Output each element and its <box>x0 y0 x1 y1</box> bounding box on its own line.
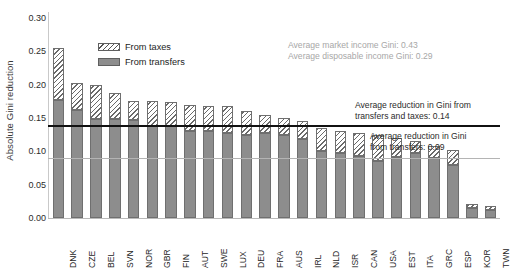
bar-group <box>53 48 65 218</box>
bar-segment-from-taxes <box>128 101 140 120</box>
y-axis-tick-label: 0.25 <box>18 47 46 56</box>
bar-segment-from-transfers <box>203 131 215 218</box>
x-axis-tick-label: GRC <box>444 222 454 268</box>
x-axis-tick-label: GBR <box>162 222 172 268</box>
bar-segment-from-taxes <box>335 131 347 153</box>
bar-segment-from-taxes <box>71 83 83 110</box>
bar-group <box>353 133 365 218</box>
x-axis-tick-label: ISR <box>350 222 360 268</box>
x-axis-tick-label: ITA <box>425 222 435 268</box>
bar-segment-from-transfers <box>222 133 234 218</box>
bar-group <box>90 85 102 218</box>
bar-group <box>109 93 121 218</box>
y-axis-tick-label: 0.10 <box>18 147 46 156</box>
legend-item-label: From transfers <box>125 57 185 67</box>
bar-group <box>335 131 347 218</box>
x-axis-tick-label: FIN <box>181 222 191 268</box>
bar-segment-from-taxes <box>109 93 121 120</box>
x-axis-tick-label: LUX <box>238 222 248 268</box>
x-axis-tick-label: EST <box>407 222 417 268</box>
x-axis-tick-label: IRL <box>313 222 323 268</box>
bar-group <box>447 150 459 218</box>
bar-group <box>316 128 328 218</box>
annotation-reference-line-total: Average reduction in Gini from transfers… <box>355 100 471 122</box>
y-axis-ticks: 0.050.100.150.200.250.300.00 <box>14 0 46 270</box>
x-axis-tick-label: TWN <box>501 222 511 268</box>
bar-segment-from-transfers <box>372 161 384 218</box>
y-axis-tick-label: 0.20 <box>18 80 46 89</box>
x-axis-tick-label: KOR <box>482 222 492 268</box>
bar-segment-from-transfers <box>259 133 271 218</box>
bar-group <box>184 105 196 218</box>
bar-segment-from-transfers <box>485 210 497 218</box>
bar-group <box>259 115 271 218</box>
bar-segment-from-taxes <box>90 85 102 120</box>
bar-segment-from-taxes <box>203 106 215 131</box>
bar-segment-from-transfers <box>128 120 140 218</box>
bar-segment-from-taxes <box>316 128 328 151</box>
bar-segment-from-transfers <box>391 157 403 218</box>
bar-segment-from-transfers <box>184 131 196 218</box>
hatch-swatch-icon <box>98 43 120 51</box>
x-axis-tick-label: FRA <box>275 222 285 268</box>
bar-segment-from-transfers <box>109 119 121 218</box>
annotation-average-gini: Average market income Gini: 0.43 Average… <box>288 40 433 62</box>
bar-segment-from-transfers <box>147 126 159 218</box>
bar-segment-from-transfers <box>410 153 422 218</box>
y-axis-tick-label: 0.00 <box>18 214 46 223</box>
bar-group <box>466 204 478 218</box>
bar-segment-from-transfers <box>466 208 478 218</box>
bar-segment-from-taxes <box>222 106 234 133</box>
bar-segment-from-transfers <box>278 135 290 218</box>
x-axis-tick-label: SWE <box>219 222 229 268</box>
x-axis-tick-label: DNK <box>68 222 78 268</box>
bar-segment-from-transfers <box>165 126 177 218</box>
y-axis-title-label: Absolute Gini reduction <box>4 60 15 161</box>
bar-group <box>297 121 309 218</box>
bar-segment-from-taxes <box>466 204 478 208</box>
x-axis-labels: DNKCZEBELSVNNORGBRFINAUTSWELUXDEUFRAAUSI… <box>49 220 500 270</box>
bar-group <box>428 146 440 218</box>
x-axis-tick-label: SVN <box>125 222 135 268</box>
solid-swatch-icon <box>98 58 120 66</box>
bar-segment-from-transfers <box>297 139 309 218</box>
x-axis-tick-label: NOR <box>144 222 154 268</box>
bar-segment-from-taxes <box>165 102 177 126</box>
x-axis-tick-label: CAN <box>369 222 379 268</box>
bar-segment-from-transfers <box>316 151 328 218</box>
x-axis-tick-label: BEL <box>106 222 116 268</box>
bar-segment-from-transfers <box>335 153 347 218</box>
bar-group <box>71 83 83 218</box>
legend-item-from-taxes: From taxes <box>98 40 185 53</box>
bar-group <box>165 102 177 218</box>
x-axis-tick-label: ESP <box>463 222 473 268</box>
chart-legend: From taxes From transfers <box>98 40 185 70</box>
legend-item-from-transfers: From transfers <box>98 55 185 68</box>
x-axis-tick-label: AUT <box>200 222 210 268</box>
x-axis-tick-label: AUS <box>294 222 304 268</box>
bar-segment-from-taxes <box>353 133 365 156</box>
bar-segment-from-taxes <box>53 48 65 100</box>
annotation-reference-line-transfers: Average reduction in Gini from transfers… <box>370 131 466 153</box>
bar-group <box>128 101 140 218</box>
bar-segment-from-taxes <box>485 206 497 210</box>
x-axis-line <box>48 218 500 219</box>
bar-segment-from-transfers <box>53 100 65 218</box>
reference-line-transfers <box>48 158 500 159</box>
bar-group <box>278 118 290 218</box>
x-axis-tick-label: CZE <box>87 222 97 268</box>
bar-group <box>222 106 234 218</box>
bar-segment-from-taxes <box>184 105 196 132</box>
legend-item-label: From taxes <box>125 42 171 52</box>
bar-segment-from-transfers <box>90 119 102 218</box>
bar-group <box>147 101 159 218</box>
bar-group <box>485 206 497 218</box>
bar-segment-from-transfers <box>447 165 459 218</box>
x-axis-tick-label: USA <box>388 222 398 268</box>
bar-segment-from-transfers <box>428 158 440 218</box>
y-axis-tick-label: 0.05 <box>18 180 46 189</box>
bar-segment-from-transfers <box>353 156 365 218</box>
reference-line-transfers-and-taxes <box>48 125 500 127</box>
bar-segment-from-taxes <box>147 101 159 126</box>
